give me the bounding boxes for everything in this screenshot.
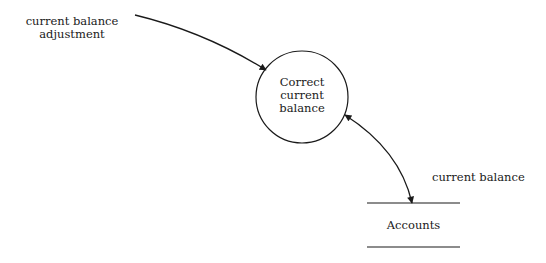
process-label: Correct current balance bbox=[256, 76, 348, 115]
adjustment-flow-arrow bbox=[135, 15, 266, 70]
external-flow-label-line2: adjustment bbox=[20, 28, 124, 41]
balance-flow-arrow bbox=[345, 115, 412, 203]
process-label-line3: balance bbox=[256, 102, 348, 115]
external-flow-label: current balance adjustment bbox=[20, 15, 124, 41]
data-store-label: Accounts bbox=[367, 219, 460, 232]
store-flow-label: current balance bbox=[432, 171, 525, 184]
